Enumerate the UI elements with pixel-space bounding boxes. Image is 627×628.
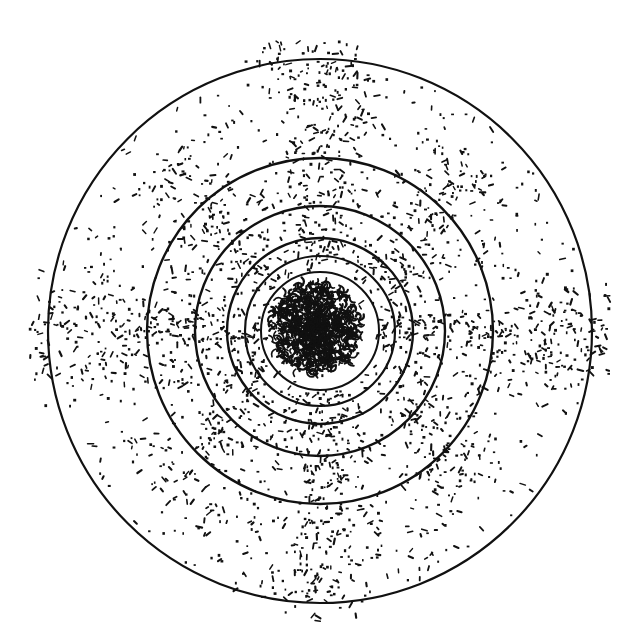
scatter-dot	[254, 404, 258, 407]
scatter-dot	[269, 89, 270, 94]
scatter-dot	[174, 221, 177, 223]
scatter-dot	[240, 415, 242, 417]
scatter-dot	[566, 319, 568, 321]
scatter-dot	[324, 213, 329, 215]
scatter-dot	[375, 372, 377, 375]
scatter-dot	[331, 419, 333, 422]
scatter-dot	[607, 373, 610, 375]
scatter-dot	[318, 80, 320, 83]
scatter-dot	[181, 378, 183, 381]
scatter-dot	[410, 433, 413, 435]
scatter-dot	[352, 580, 354, 581]
scatter-dot	[447, 343, 448, 348]
scatter-dot	[338, 586, 340, 588]
scatter-dot	[558, 343, 560, 345]
scatter-dot	[317, 532, 319, 534]
dense-core-blob	[268, 277, 364, 377]
scatter-dot	[356, 270, 357, 272]
scatter-dot	[501, 351, 503, 354]
scatter-dot	[538, 194, 539, 200]
scatter-dot	[144, 355, 148, 357]
scatter-dot	[303, 99, 305, 102]
scatter-dot	[195, 479, 198, 481]
scatter-dot	[495, 237, 496, 240]
scatter-dot	[276, 133, 278, 136]
scatter-dot	[461, 444, 463, 445]
scatter-dot	[250, 372, 253, 375]
scatter-dot	[405, 273, 407, 276]
scatter-dot	[249, 261, 251, 264]
scatter-dot	[478, 389, 479, 394]
scatter-dot	[312, 521, 313, 524]
scatter-dot	[133, 335, 135, 338]
scatter-dot	[389, 299, 392, 301]
scatter-dot	[71, 376, 73, 379]
scatter-dot	[547, 347, 550, 349]
scatter-dot	[410, 430, 412, 432]
scatter-dot	[377, 528, 379, 530]
scatter-dot	[437, 514, 442, 517]
scatter-dot	[333, 593, 336, 596]
scatter-dot	[382, 455, 385, 456]
scatter-dot	[285, 420, 286, 422]
scatter-dot	[238, 263, 241, 268]
scatter-dot	[537, 293, 540, 295]
scatter-dot	[372, 257, 374, 259]
scatter-dot	[393, 303, 397, 306]
scatter-dot	[603, 347, 607, 349]
scatter-dot	[550, 322, 554, 326]
scatter-dot	[182, 532, 184, 535]
scatter-dot	[440, 193, 444, 194]
scatter-dot	[347, 263, 349, 264]
scatter-dot	[327, 506, 328, 509]
scatter-dot	[576, 312, 578, 314]
scatter-dot	[522, 371, 524, 373]
scatter-dot	[527, 171, 530, 174]
scatter-dot	[236, 293, 239, 296]
scatter-dot	[234, 315, 235, 317]
scatter-dot	[101, 282, 103, 285]
scatter-dot	[608, 297, 611, 302]
scatter-dot	[375, 251, 377, 253]
scatter-dot	[190, 155, 192, 157]
scatter-dot	[116, 355, 118, 358]
scatter-dot	[567, 326, 572, 328]
scatter-dot	[444, 422, 446, 425]
scatter-dot	[313, 479, 315, 481]
scatter-dot	[420, 476, 421, 479]
scatter-dot	[322, 229, 326, 230]
scatter-dot	[188, 338, 191, 341]
scatter-dot	[364, 265, 366, 267]
scatter-dot	[509, 277, 511, 279]
scatter-dot	[301, 141, 303, 143]
scatter-dot	[100, 458, 101, 461]
scatter-dot	[301, 591, 303, 593]
scatter-dot	[247, 411, 249, 413]
scatter-dot	[98, 324, 100, 328]
scatter-dot	[290, 77, 291, 79]
scatter-dot	[37, 296, 39, 301]
scatter-dot	[341, 192, 342, 197]
scatter-dot	[182, 170, 185, 172]
scatter-dot	[392, 419, 393, 422]
scatter-dot	[288, 386, 291, 389]
scatter-dot	[329, 72, 331, 75]
scatter-dot	[434, 422, 437, 425]
scatter-dot	[305, 496, 308, 498]
scatter-dot	[365, 133, 367, 135]
scatter-dot	[312, 488, 314, 491]
scatter-dot	[316, 615, 321, 618]
scatter-dot	[514, 334, 516, 336]
scatter-dot	[443, 257, 446, 259]
scatter-dot	[424, 327, 427, 330]
scatter-dot	[524, 446, 526, 447]
scatter-dot	[405, 351, 407, 354]
scatter-dot	[301, 237, 305, 239]
scatter-dot	[251, 383, 253, 386]
scatter-dot	[270, 417, 272, 419]
scatter-dot	[463, 354, 466, 356]
scatter-dot	[302, 525, 304, 528]
scatter-dot	[449, 435, 452, 437]
core-squiggle	[353, 347, 354, 352]
scatter-dot	[420, 411, 422, 413]
